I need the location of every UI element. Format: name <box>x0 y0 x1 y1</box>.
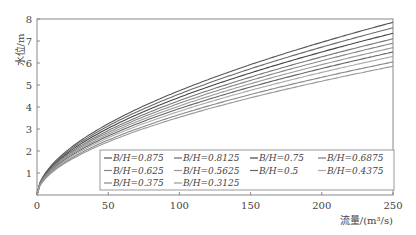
x-tick-label: 200 <box>312 200 331 211</box>
y-tick-label: 8 <box>26 14 32 25</box>
legend-label: B/H=0.5625 <box>182 166 240 176</box>
legend-label: B/H=0.8125 <box>182 153 240 163</box>
x-tick-label: 150 <box>241 200 260 211</box>
y-axis-label: 水位/m <box>14 33 26 66</box>
x-tick-label: 0 <box>34 200 40 211</box>
legend-label: B/H=0.5 <box>258 166 299 176</box>
x-axis-label: 流量/(m³/s) <box>340 214 393 226</box>
x-tick-label: 100 <box>170 200 189 211</box>
legend-label: B/H=0.4375 <box>326 166 384 176</box>
y-tick-label: 3 <box>26 124 32 135</box>
x-tick-label: 250 <box>383 200 402 211</box>
legend-label: B/H=0.375 <box>112 178 164 188</box>
legend-label: B/H=0.75 <box>258 153 304 163</box>
y-tick-label: 1 <box>26 168 32 179</box>
legend-label: B/H=0.6875 <box>326 153 384 163</box>
x-tick-label: 50 <box>102 200 115 211</box>
y-tick-label: 4 <box>26 102 32 113</box>
legend-label: B/H=0.625 <box>112 166 164 176</box>
y-tick-label: 6 <box>26 58 32 69</box>
y-tick-label: 7 <box>26 36 32 47</box>
chart: 12345678050100150200250水位/m流量/(m³/s)B/H=… <box>0 0 416 235</box>
y-tick-label: 5 <box>26 80 32 91</box>
chart-svg: 12345678050100150200250水位/m流量/(m³/s)B/H=… <box>0 0 416 235</box>
legend-label: B/H=0.3125 <box>182 178 240 188</box>
legend-label: B/H=0.875 <box>112 153 164 163</box>
y-tick-label: 2 <box>26 146 32 157</box>
